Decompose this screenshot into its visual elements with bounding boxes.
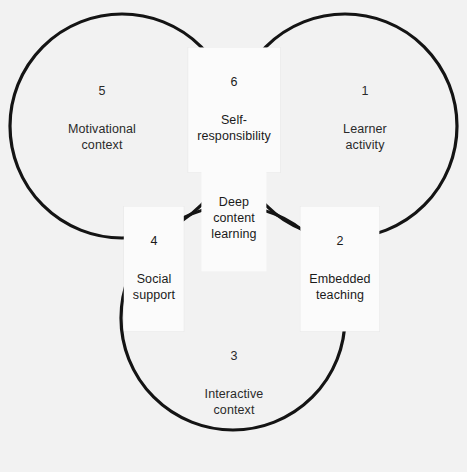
region-title: Social support	[133, 271, 175, 304]
region-title: Learner activity	[343, 121, 387, 154]
region-title: Self- responsibility	[197, 112, 271, 145]
region-label-motivational-context: 5 Motivational context	[68, 62, 136, 174]
region-title: Motivational context	[68, 121, 136, 154]
region-label-learner-activity: 1 Learner activity	[343, 62, 387, 174]
region-label-interactive-context: 3 Interactive context	[205, 327, 264, 439]
region-title: Interactive context	[205, 386, 264, 419]
region-label-deep-content-learning: Deep content learning	[201, 166, 266, 271]
region-title: Deep content learning	[211, 194, 256, 243]
region-number: 6	[197, 74, 271, 90]
region-label-self-responsibility: 6 Self- responsibility	[188, 47, 280, 172]
region-number: 5	[68, 83, 136, 99]
region-label-social-support: 4 Social support	[124, 206, 184, 331]
region-number: 2	[309, 233, 370, 249]
region-number: 3	[205, 348, 264, 364]
region-number: 4	[133, 233, 175, 249]
region-title: Embedded teaching	[309, 271, 370, 304]
region-number: 1	[343, 83, 387, 99]
region-label-embedded-teaching: 2 Embedded teaching	[300, 206, 379, 331]
venn-diagram: 1 Learner activity 2 Embedded teaching 3…	[0, 0, 467, 472]
